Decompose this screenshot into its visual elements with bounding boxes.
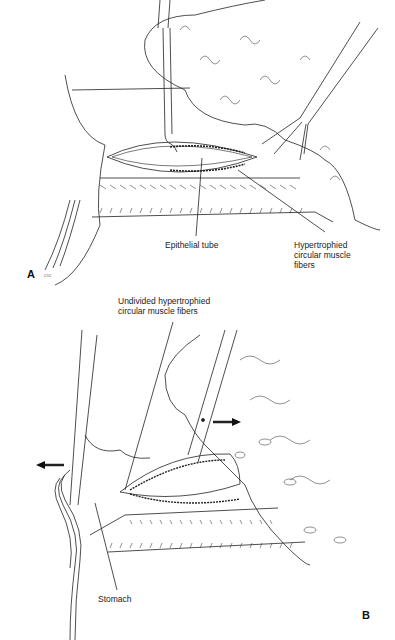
arrow-left-icon <box>36 461 64 469</box>
omentum-tissue <box>145 0 381 230</box>
clamp-instrument <box>262 22 378 160</box>
arrow-right-icon <box>213 418 241 426</box>
leader-stomach <box>95 503 117 590</box>
label-undivided-fibers: Undivided hypertrophied circular muscle … <box>118 296 210 316</box>
panel-label-b: B <box>362 609 370 621</box>
artist-signature: csc <box>44 272 52 278</box>
incision <box>107 142 257 172</box>
leader-hypertrophied <box>238 170 325 232</box>
label-stomach: Stomach <box>98 594 132 604</box>
leader-epithelial-tube <box>196 158 202 236</box>
label-epithelial-tube: Epithelial tube <box>165 240 218 250</box>
label-hypertrophied-fibers: Hypertrophied circular muscle fibers <box>294 240 351 270</box>
panel-label-a: A <box>27 268 35 280</box>
